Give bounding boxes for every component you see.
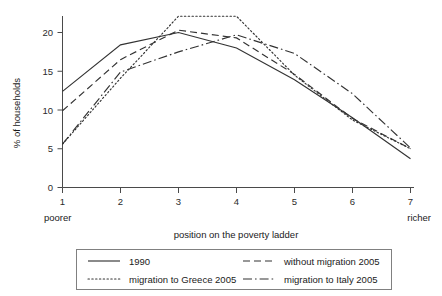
x-tick-label-1: 1 (60, 196, 65, 207)
series-line-migration-to-italy-2005 (63, 35, 411, 148)
y-tick-label-20: 20 (42, 27, 53, 38)
y-tick-label-10: 10 (42, 105, 53, 116)
x-tick-label-7: 7 (408, 196, 413, 207)
series-line-1990 (63, 33, 411, 159)
chart-svg: 0 5 10 15 20 1 2 3 4 5 6 7 poorer richer… (0, 0, 442, 296)
series-group (63, 16, 411, 159)
x-axis-ticks (63, 188, 411, 194)
y-axis-ticks (58, 33, 63, 188)
x-axis-left-end-label: poorer (44, 212, 71, 223)
y-tick-label-0: 0 (48, 182, 53, 193)
x-tick-label-4: 4 (234, 196, 239, 207)
x-tick-label-6: 6 (350, 196, 355, 207)
legend-label-1990: 1990 (129, 256, 150, 267)
legend-label-without-migration-2005: without migration 2005 (283, 256, 380, 267)
y-tick-label-5: 5 (48, 143, 53, 154)
chart-legend: 1990 migration to Greece 2005 without mi… (77, 250, 392, 290)
x-tick-label-2: 2 (118, 196, 123, 207)
legend-label-migration-to-italy-2005: migration to Italy 2005 (284, 274, 377, 285)
x-tick-label-5: 5 (292, 196, 297, 207)
y-axis-title: % of households (11, 78, 22, 148)
x-axis-title: position on the poverty ladder (174, 229, 299, 240)
x-axis-right-end-label: richer (407, 212, 431, 223)
series-line-migration-to-greece-2005 (63, 16, 411, 149)
y-tick-label-15: 15 (42, 66, 53, 77)
x-tick-label-3: 3 (176, 196, 181, 207)
legend-label-migration-to-greece-2005: migration to Greece 2005 (129, 274, 236, 285)
chart-figure: 0 5 10 15 20 1 2 3 4 5 6 7 poorer richer… (0, 0, 442, 296)
